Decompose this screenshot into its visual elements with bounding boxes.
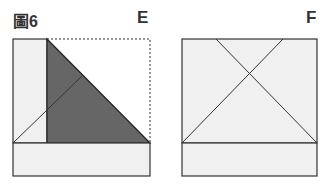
left-strip [13, 39, 47, 143]
diagram-canvas [0, 0, 326, 189]
panel-f [182, 39, 317, 176]
bottom-strip [13, 143, 150, 176]
upper-square [182, 39, 317, 143]
panel-e [13, 39, 150, 176]
bottom-strip [182, 143, 317, 176]
shaded-triangle [47, 39, 150, 143]
